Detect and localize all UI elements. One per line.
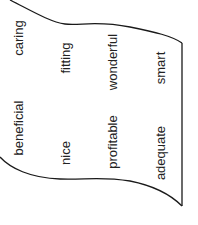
word-wonderful: wonderful [106, 34, 119, 90]
word-caring: caring [12, 20, 25, 55]
word-nice: nice [59, 141, 72, 165]
word-beneficial: beneficial [12, 101, 25, 156]
word-fitting: fitting [59, 42, 72, 73]
word-smart: smart [154, 52, 167, 85]
flag-top-edge [10, 0, 182, 43]
word-profitable: profitable [106, 115, 119, 168]
flag-outline [0, 0, 198, 225]
word-adequate: adequate [154, 126, 167, 180]
